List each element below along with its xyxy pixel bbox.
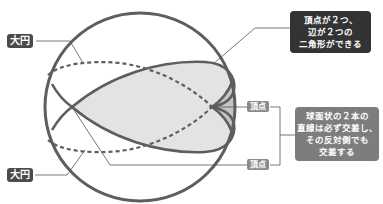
callout-lune: 頂点が２つ、 辺が２つの 二角形ができる: [290, 11, 371, 53]
label-great-circle-top: 大円: [7, 34, 33, 48]
callout-intersection-line: 球面状の２本の: [295, 110, 379, 122]
label-vertex-bottom: 頂点: [247, 159, 269, 170]
leader-lune-callout: [213, 28, 290, 64]
callout-lune-line: 頂点が２つ、: [290, 14, 371, 26]
callout-lune-line: 二角形ができる: [290, 38, 371, 50]
callout-intersection: 球面状の２本の 直線は必ず交差し、 その反対側でも 交差する: [295, 107, 379, 161]
leader-great-circle-bottom: [35, 150, 85, 175]
callout-intersection-line: その反対側でも: [295, 134, 379, 146]
label-vertex-top: 頂点: [247, 101, 269, 112]
label-great-circle-bottom: 大円: [7, 168, 33, 182]
callout-intersection-line: 直線は必ず交差し、: [295, 122, 379, 134]
callout-intersection-line: 交差する: [295, 146, 379, 158]
bracket-vertices: [270, 107, 280, 165]
callout-lune-line: 辺が２つの: [290, 26, 371, 38]
